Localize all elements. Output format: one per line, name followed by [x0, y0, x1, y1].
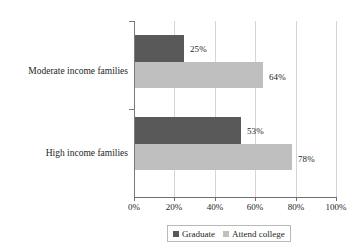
x-axis-tick-40: [215, 197, 216, 201]
y-axis-tick-middle: [129, 109, 134, 110]
value-label-high-graduate: 53%: [247, 127, 264, 136]
x-axis-tick-0: [134, 197, 135, 201]
value-label-high-attend-college: 78%: [298, 155, 315, 164]
gridline-100: [336, 21, 337, 197]
bar-high-attend-college: [134, 144, 292, 170]
value-label-moderate-attend-college: 64%: [269, 73, 286, 82]
x-axis-label-0: 0%: [128, 202, 140, 212]
bar-moderate-graduate: [134, 35, 184, 62]
x-axis-tick-60: [255, 197, 256, 201]
bar-high-graduate: [134, 117, 241, 144]
legend-item-graduate[interactable]: Graduate: [173, 229, 215, 239]
bar-chart: Moderate income families High income fam…: [0, 0, 363, 250]
x-axis-label-60: 60%: [247, 202, 264, 212]
x-axis-tick-80: [296, 197, 297, 201]
x-axis-label-80: 80%: [288, 202, 305, 212]
x-axis-line: [134, 197, 337, 198]
legend-label-graduate: Graduate: [182, 229, 215, 239]
x-axis-tick-20: [174, 197, 175, 201]
y-axis-line: [134, 21, 135, 197]
x-axis-label-100: 100%: [326, 202, 347, 212]
gridline-80: [296, 21, 297, 197]
bar-moderate-attend-college: [134, 62, 263, 88]
category-label-moderate-income-families: Moderate income families: [0, 66, 128, 77]
plot-area: [134, 21, 336, 197]
gridline-40: [215, 21, 216, 197]
legend-label-attend-college: Attend college: [232, 229, 285, 239]
x-axis-tick-100: [336, 197, 337, 201]
legend-swatch-icon-attend-college: [223, 231, 229, 237]
gridline-60: [255, 21, 256, 197]
chart-legend: Graduate Attend college: [167, 225, 291, 242]
category-label-high-income-families: High income families: [0, 148, 128, 159]
value-label-moderate-graduate: 25%: [190, 45, 207, 54]
legend-swatch-icon-graduate: [173, 231, 179, 237]
x-axis-label-20: 20%: [166, 202, 183, 212]
y-axis-tick-top: [129, 21, 134, 22]
x-axis-label-40: 40%: [207, 202, 224, 212]
legend-item-attend-college[interactable]: Attend college: [223, 229, 285, 239]
